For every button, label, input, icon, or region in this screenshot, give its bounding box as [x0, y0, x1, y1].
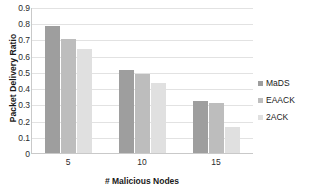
y-tick-label: 0.6 — [10, 52, 30, 62]
y-axis-tick-labels: 00.10.20.30.40.50.60.70.80.9 — [10, 8, 30, 154]
bar — [151, 83, 166, 153]
y-tick-label: 0.3 — [10, 100, 30, 110]
bar-chart: Packet Delivery Ratio 00.10.20.30.40.50.… — [0, 0, 311, 191]
x-tick-label: 15 — [187, 157, 245, 167]
y-tick-label: 0 — [10, 149, 30, 159]
legend-item: EAACK — [258, 95, 295, 105]
legend: MaDSEAACK2ACK — [258, 78, 295, 122]
bar — [61, 39, 76, 153]
legend-item: 2ACK — [258, 112, 295, 122]
y-tick-label: 0.5 — [10, 68, 30, 78]
legend-swatch-icon — [258, 98, 263, 103]
y-tick-label: 0.4 — [10, 84, 30, 94]
y-tick-label: 0.7 — [10, 35, 30, 45]
legend-label: 2ACK — [266, 112, 288, 122]
bar — [119, 70, 134, 153]
legend-swatch-icon — [258, 81, 263, 86]
plot-area — [31, 8, 253, 154]
legend-item: MaDS — [258, 78, 295, 88]
legend-label: MaDS — [266, 78, 290, 88]
y-tick-label: 0.1 — [10, 133, 30, 143]
bar-groups — [32, 8, 253, 153]
legend-swatch-icon — [258, 115, 263, 120]
x-tick-label: 5 — [39, 157, 97, 167]
bar — [45, 26, 60, 153]
x-axis-tick-labels: 51015 — [31, 157, 253, 167]
y-tick-label: 0.9 — [10, 3, 30, 13]
bar — [193, 101, 208, 153]
bar-group — [40, 8, 97, 153]
bar-group — [187, 8, 244, 153]
y-tick-label: 0.8 — [10, 19, 30, 29]
bar — [135, 74, 150, 153]
legend-label: EAACK — [266, 95, 295, 105]
bar — [225, 127, 240, 153]
bar — [209, 103, 224, 153]
y-tick-label: 0.2 — [10, 117, 30, 127]
x-axis-title: # Malicious Nodes — [31, 176, 253, 186]
bar — [77, 49, 92, 153]
bar-group — [114, 8, 171, 153]
x-tick-label: 10 — [113, 157, 171, 167]
